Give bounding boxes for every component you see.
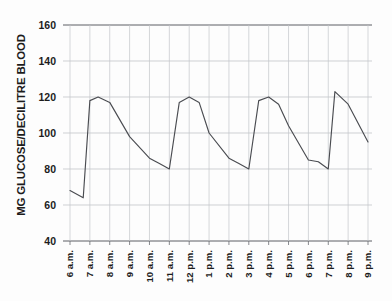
y-tick-labels: 406080100120140160 [38, 19, 56, 247]
x-tick-labels: 6 a.m.7 a.m.8 a.m.9 a.m.10 a.m.11 a.m.12… [64, 250, 373, 283]
chart-plot-svg: 406080100120140160 6 a.m.7 a.m.8 a.m.9 a… [0, 0, 392, 301]
y-tick-label: 60 [44, 199, 56, 211]
glucose-series-line [70, 92, 368, 198]
y-tick-label: 100 [38, 127, 56, 139]
x-tick-label: 7 a.m. [84, 250, 95, 277]
x-tick-label: 8 p.m. [343, 250, 354, 278]
x-tick-label: 3 p.m. [243, 250, 254, 278]
x-tick-label: 12 p.m. [184, 250, 195, 283]
y-tick-label: 120 [38, 91, 56, 103]
x-tick-marks [70, 241, 368, 245]
y-tick-label: 80 [44, 163, 56, 175]
x-tick-label: 11 a.m. [164, 250, 175, 282]
x-tick-label: 4 p.m. [263, 250, 274, 278]
x-tick-label: 6 p.m. [303, 250, 314, 278]
y-tick-label: 160 [38, 19, 56, 31]
x-tick-label: 8 a.m. [104, 250, 115, 277]
x-tick-label: 5 p.m. [283, 250, 294, 278]
x-tick-label: 6 a.m. [64, 250, 75, 277]
x-tick-label: 1 p.m. [203, 250, 214, 278]
y-tick-label: 40 [44, 235, 56, 247]
x-tick-label: 7 p.m. [323, 250, 334, 278]
y-tick-label: 140 [38, 55, 56, 67]
x-tick-label: 2 p.m. [223, 250, 234, 278]
x-tick-label: 9 p.m. [362, 250, 373, 278]
x-tick-label: 10 a.m. [144, 250, 155, 283]
y-gridlines [63, 25, 372, 241]
glucose-line-chart: MG GLUCOSE/DECILITRE BLOOD 4060801001201… [0, 0, 392, 301]
x-tick-label: 9 a.m. [124, 250, 135, 277]
